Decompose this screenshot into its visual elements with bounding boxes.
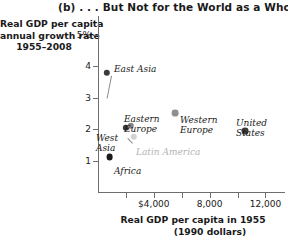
data-point-label: East Asia (114, 64, 156, 74)
plot-area: 5%4321$4,0008,00012,000East AsiaWestAsia… (98, 16, 285, 192)
x-axis-title-line-2: (1990 dollars) (98, 226, 288, 238)
data-point[interactable] (106, 154, 113, 161)
data-point-label: EasternEurope (124, 114, 160, 135)
x-axis-title: Real GDP per capita in 1955 (1990 dollar… (98, 214, 288, 238)
y-axis-title-line-2: annual growth rate (0, 30, 88, 42)
x-axis-tick (182, 193, 183, 198)
data-point-label: Africa (114, 166, 141, 176)
y-axis-tick-label: 2 (85, 124, 91, 134)
data-point-label-line: Europe (124, 124, 160, 134)
data-point-label: WestAsia (96, 133, 118, 154)
x-axis-tick (154, 193, 155, 198)
y-axis-line (98, 16, 99, 192)
y-axis-title-line-3: 1955–2008 (0, 41, 88, 53)
data-point-label-line: Western (180, 115, 218, 125)
data-point-label: WesternEurope (180, 115, 218, 136)
y-axis-tick-label: 4 (85, 61, 91, 71)
y-axis-tick-label: 3 (85, 93, 91, 103)
x-axis-tick (238, 193, 239, 198)
y-axis-tick (93, 98, 98, 99)
data-point-label: Latin America (136, 147, 200, 157)
x-axis-tick-label: 8,000 (197, 199, 223, 209)
data-point-label-line: Eastern (124, 114, 160, 124)
data-point-label-line: West (96, 133, 118, 143)
x-axis-tick-label: $4,000 (138, 199, 170, 209)
data-point-label-line: Europe (180, 125, 218, 135)
data-point-label-line: United (236, 118, 267, 128)
data-point-label-line: States (236, 128, 267, 138)
chart-figure: (b) . . . But Not for the World as a Who… (0, 0, 288, 244)
y-axis-title-line-1: Real GDP per capita (0, 18, 88, 30)
data-point-label-line: Asia (96, 143, 118, 153)
label-leader-line (107, 76, 112, 99)
x-axis-tick (265, 193, 266, 198)
y-axis-tick-label: 5% (77, 30, 91, 40)
data-point[interactable] (104, 69, 110, 75)
data-point[interactable] (172, 110, 179, 117)
page-title: (b) . . . But Not for the World as a Who… (58, 1, 286, 13)
y-axis-tick (93, 129, 98, 130)
x-axis-tick-label: 12,000 (250, 199, 282, 209)
x-axis-tick (210, 193, 211, 198)
y-axis-title: Real GDP per capita annual growth rate 1… (0, 18, 88, 53)
data-point[interactable] (131, 134, 137, 140)
y-axis-tick (93, 161, 98, 162)
x-axis-tick (126, 193, 127, 198)
x-axis-title-line-1: Real GDP per capita in 1955 (98, 214, 288, 226)
y-axis-tick (93, 35, 98, 36)
y-axis-tick-label: 1 (85, 156, 91, 166)
y-axis-tick (93, 66, 98, 67)
data-point-label: UnitedStates (236, 118, 267, 139)
